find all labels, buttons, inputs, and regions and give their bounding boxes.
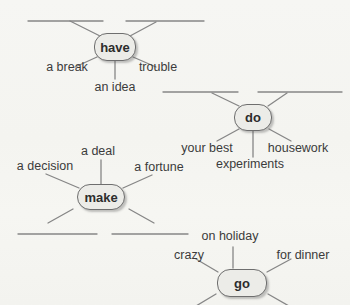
verb-node-do: do bbox=[234, 104, 272, 131]
go-spoke-bottom-left bbox=[196, 294, 216, 305]
collocation-word-map: have do make go a break trouble an idea … bbox=[0, 0, 350, 305]
have-spoke-top-left bbox=[70, 21, 100, 36]
collocation-label-crazy: crazy bbox=[174, 249, 204, 262]
make-spoke-bottom-left bbox=[48, 209, 73, 223]
have-spoke-top-right bbox=[130, 22, 156, 36]
collocation-label-on-holiday: on holiday bbox=[202, 230, 259, 243]
make-spoke-upper-left bbox=[46, 174, 79, 188]
collocation-label-your-best: your best bbox=[181, 142, 232, 155]
go-spoke-bottom-right bbox=[268, 294, 289, 305]
collocation-label-for-dinner: for dinner bbox=[277, 249, 330, 262]
verb-node-have: have bbox=[94, 33, 136, 61]
collocation-label-experiments: experiments bbox=[216, 158, 284, 171]
verb-node-have-label: have bbox=[100, 40, 130, 55]
verb-node-make: make bbox=[77, 184, 125, 210]
collocation-label-a-break: a break bbox=[46, 61, 88, 74]
verb-node-make-label: make bbox=[84, 190, 117, 205]
collocation-label-an-idea: an idea bbox=[94, 81, 135, 94]
do-spoke-lower-left bbox=[217, 129, 239, 141]
do-spoke-top-right bbox=[268, 93, 287, 106]
collocation-label-a-deal: a deal bbox=[81, 145, 115, 158]
make-spoke-bottom-right bbox=[129, 209, 154, 223]
verb-node-do-label: do bbox=[245, 110, 261, 125]
collocation-label-a-fortune: a fortune bbox=[134, 161, 183, 174]
collocation-label-trouble: trouble bbox=[139, 61, 177, 74]
collocation-label-housework: housework bbox=[268, 142, 328, 155]
do-spoke-lower-right bbox=[269, 129, 291, 141]
make-spoke-upper-right bbox=[123, 175, 152, 188]
verb-node-go-label: go bbox=[234, 276, 250, 291]
do-spoke-top-left bbox=[212, 93, 239, 106]
collocation-label-a-decision: a decision bbox=[17, 160, 73, 173]
verb-node-go: go bbox=[217, 269, 267, 297]
